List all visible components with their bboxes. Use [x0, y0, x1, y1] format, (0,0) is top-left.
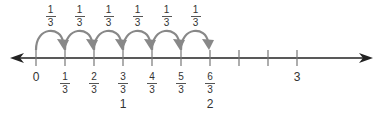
- whole-number-label: 2: [200, 98, 220, 110]
- numerator: 2: [87, 72, 101, 83]
- numerator: 1: [102, 5, 116, 16]
- numerator: 1: [131, 5, 145, 16]
- tick-label: 3: [287, 71, 307, 83]
- jump-label: 13: [44, 5, 58, 28]
- jump-label: 13: [189, 5, 203, 28]
- numerator: 1: [160, 5, 174, 16]
- denominator: 3: [145, 84, 159, 95]
- jump-arrowhead-icon: [202, 39, 214, 50]
- denominator: 3: [131, 17, 145, 28]
- jump-label: 13: [102, 5, 116, 28]
- tick-fraction-label: 23: [87, 72, 101, 95]
- number-line-diagram: 0132333143536323131313131313: [0, 0, 379, 116]
- denominator: 3: [87, 84, 101, 95]
- tick-fraction-label: 63: [203, 72, 217, 95]
- tick-fraction-label: 43: [145, 72, 159, 95]
- tick-label: 0: [26, 71, 46, 83]
- denominator: 3: [73, 17, 87, 28]
- whole-number-label: 1: [113, 98, 133, 110]
- tick-fraction-label: 13: [58, 72, 72, 95]
- denominator: 3: [44, 17, 58, 28]
- numerator: 3: [116, 72, 130, 83]
- numerator: 4: [145, 72, 159, 83]
- numerator: 6: [203, 72, 217, 83]
- denominator: 3: [102, 17, 116, 28]
- denominator: 3: [189, 17, 203, 28]
- denominator: 3: [174, 84, 188, 95]
- denominator: 3: [116, 84, 130, 95]
- denominator: 3: [203, 84, 217, 95]
- numerator: 1: [73, 5, 87, 16]
- numerator: 1: [44, 5, 58, 16]
- numerator: 1: [58, 72, 72, 83]
- jump-label: 13: [73, 5, 87, 28]
- denominator: 3: [58, 84, 72, 95]
- jump-label: 13: [160, 5, 174, 28]
- numerator: 1: [189, 5, 203, 16]
- jump-label: 13: [131, 5, 145, 28]
- tick-fraction-label: 53: [174, 72, 188, 95]
- denominator: 3: [160, 17, 174, 28]
- numerator: 5: [174, 72, 188, 83]
- tick-fraction-label: 33: [116, 72, 130, 95]
